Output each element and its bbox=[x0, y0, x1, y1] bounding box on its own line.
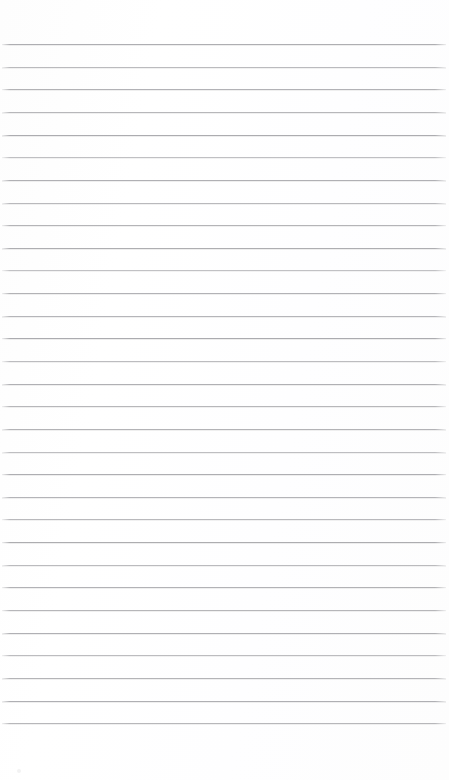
ruled-line bbox=[2, 610, 446, 611]
ruled-line bbox=[2, 225, 446, 226]
ruled-line bbox=[2, 406, 446, 407]
bottom-margin-area bbox=[0, 723, 449, 780]
ruled-line bbox=[2, 112, 446, 113]
ruled-line bbox=[2, 497, 446, 498]
scan-speck-artifact bbox=[17, 769, 21, 773]
ruled-line bbox=[2, 633, 446, 634]
ruled-line bbox=[2, 44, 446, 45]
ruled-line bbox=[2, 180, 446, 181]
ruled-line bbox=[2, 452, 446, 453]
ruled-line bbox=[2, 587, 446, 588]
ruled-line bbox=[2, 384, 446, 385]
ruled-line bbox=[2, 542, 446, 543]
ruled-line bbox=[2, 338, 446, 339]
ruled-line bbox=[2, 474, 446, 475]
ruled-line-layer bbox=[0, 0, 449, 780]
ruled-line bbox=[2, 655, 446, 656]
ruled-line bbox=[2, 135, 446, 136]
ruled-line bbox=[2, 67, 446, 68]
ruled-line bbox=[2, 248, 446, 249]
ruled-line bbox=[2, 270, 446, 271]
ruled-line bbox=[2, 89, 446, 90]
ruled-line bbox=[2, 701, 446, 702]
ruled-line bbox=[2, 565, 446, 566]
ruled-line bbox=[2, 361, 446, 362]
ruled-line bbox=[2, 316, 446, 317]
ruled-line bbox=[2, 678, 446, 679]
ruled-line bbox=[2, 293, 446, 294]
ruled-line bbox=[2, 519, 446, 520]
ruled-line bbox=[2, 203, 446, 204]
ruled-line bbox=[2, 157, 446, 158]
ruled-line bbox=[2, 429, 446, 430]
scanned-page bbox=[0, 0, 449, 780]
